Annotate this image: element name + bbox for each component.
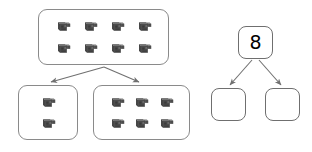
cube-icon	[137, 41, 152, 56]
cube-icon	[159, 116, 174, 131]
worksheet-canvas: 8	[0, 0, 312, 152]
cube-icon	[56, 41, 71, 56]
top-group-cubes	[50, 15, 158, 59]
arrow-to-right-part	[104, 67, 139, 82]
cube-icon	[110, 19, 125, 34]
cube-icon	[134, 95, 149, 110]
cube-icon	[134, 116, 149, 131]
cube-icon	[110, 41, 125, 56]
cube-icon	[83, 19, 98, 34]
bond-part-right-box[interactable]	[265, 88, 300, 121]
cube-icon	[159, 95, 174, 110]
bond-whole-box[interactable]: 8	[238, 26, 273, 59]
cube-icon	[41, 116, 56, 131]
cube-icon	[83, 41, 98, 56]
bottom-right-group-cubes	[105, 92, 179, 134]
bond-arrow-left	[230, 60, 252, 85]
bond-whole-value: 8	[249, 33, 261, 52]
bond-arrow-right	[259, 60, 281, 85]
arrow-to-left-part	[51, 67, 104, 82]
cube-icon	[56, 19, 71, 34]
cube-icon	[137, 19, 152, 34]
cube-icon	[110, 116, 125, 131]
cube-icon	[110, 95, 125, 110]
bond-part-left-box[interactable]	[211, 88, 246, 121]
bottom-left-group-cubes	[33, 92, 63, 134]
cube-icon	[41, 95, 56, 110]
